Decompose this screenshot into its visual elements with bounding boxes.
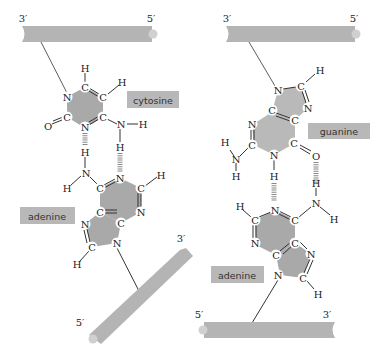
atom-n: N bbox=[113, 238, 122, 249]
atom-n: N bbox=[270, 150, 279, 161]
atom-n: N bbox=[274, 270, 283, 281]
adenine-right-label: adenine bbox=[218, 270, 256, 281]
strand-end-5prime: 5′ bbox=[350, 13, 359, 24]
atom-c: C bbox=[96, 207, 104, 218]
guanine-label: guanine bbox=[320, 126, 359, 137]
atom-c: C bbox=[96, 183, 104, 194]
strand-end-5prime: 5′ bbox=[147, 13, 156, 24]
strand-end-3prime: 3′ bbox=[223, 13, 232, 24]
atom-h: H bbox=[118, 77, 127, 88]
atom-n: N bbox=[116, 173, 125, 184]
atom-c: C bbox=[291, 215, 299, 226]
atom-h: H bbox=[81, 63, 90, 74]
cytosine-label: cytosine bbox=[133, 95, 173, 106]
atom-h: H bbox=[221, 137, 230, 148]
atom-c: C bbox=[291, 115, 299, 126]
atom-o: O bbox=[312, 151, 320, 162]
atom-n: N bbox=[248, 119, 257, 130]
strand-end-3prime: 3′ bbox=[323, 309, 332, 320]
atom-c: C bbox=[297, 81, 305, 92]
atom-n: N bbox=[271, 205, 280, 216]
atom-n: N bbox=[81, 219, 90, 230]
atom-c: C bbox=[291, 238, 299, 249]
atom-h: H bbox=[81, 147, 90, 158]
strand-end-3prime: 3′ bbox=[19, 13, 28, 24]
atom-c: C bbox=[63, 112, 71, 123]
atom-c: C bbox=[251, 215, 259, 226]
atom-c: C bbox=[248, 140, 256, 151]
atom-c: C bbox=[290, 138, 298, 149]
atom-c: C bbox=[81, 82, 89, 93]
atom-h: H bbox=[270, 171, 279, 182]
atom-h: H bbox=[312, 178, 321, 189]
atom-o: O bbox=[44, 121, 52, 132]
atom-n: N bbox=[63, 92, 72, 103]
atom-n: N bbox=[137, 207, 146, 218]
atom-c: C bbox=[117, 218, 125, 229]
atom-c: C bbox=[99, 92, 107, 103]
atom-n: N bbox=[274, 85, 283, 96]
glycosidic-bond bbox=[41, 42, 67, 93]
backbone-strand-top-right bbox=[226, 26, 361, 42]
atom-c: C bbox=[137, 183, 145, 194]
atom-h: H bbox=[157, 170, 166, 181]
atom-c: C bbox=[88, 242, 96, 253]
atom-h: H bbox=[232, 171, 241, 182]
base-pair-diagram: 3′ 5′ N C H C H C N H H N C O cytosine bbox=[0, 0, 378, 357]
atom-h: H bbox=[316, 65, 325, 76]
atom-c: C bbox=[268, 105, 276, 116]
strand-end-5prime: 5′ bbox=[195, 309, 204, 320]
atom-h: H bbox=[139, 119, 148, 130]
atom-c: C bbox=[299, 273, 307, 284]
atom-n: N bbox=[81, 122, 90, 133]
atom-c: C bbox=[272, 250, 280, 261]
atom-n: N bbox=[307, 249, 316, 260]
backbone-strand-bottom-left bbox=[89, 248, 194, 344]
atom-n: N bbox=[232, 154, 241, 165]
atom-h: H bbox=[314, 289, 323, 300]
atom-h: H bbox=[236, 201, 245, 212]
atom-n: N bbox=[304, 103, 313, 114]
atom-h: H bbox=[63, 183, 72, 194]
atom-n: N bbox=[117, 119, 126, 130]
atom-n: N bbox=[82, 168, 91, 179]
atom-n: N bbox=[312, 198, 321, 209]
atom-h: H bbox=[116, 142, 125, 153]
glycosidic-bond bbox=[249, 42, 275, 86]
backbone-strand-top-left bbox=[22, 26, 158, 42]
atom-c: C bbox=[99, 112, 107, 123]
strand-end-5prime: 5′ bbox=[76, 317, 85, 328]
atom-h: H bbox=[330, 214, 339, 225]
atom-h: H bbox=[73, 259, 82, 270]
strand-end-3prime: 3′ bbox=[177, 233, 186, 244]
backbone-strand-bottom-right bbox=[199, 322, 336, 338]
atom-n: N bbox=[251, 238, 260, 249]
adenine-left-label: adenine bbox=[28, 211, 66, 222]
